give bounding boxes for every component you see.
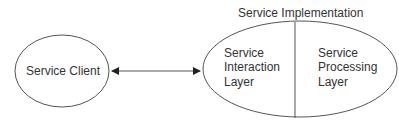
processing-layer-line-3: Layer	[318, 75, 348, 89]
service-diagram: Service Client Service Implementation Se…	[0, 0, 399, 125]
interaction-layer-line-2: Interaction	[224, 60, 280, 74]
implementation-title: Service Implementation	[238, 6, 363, 20]
service-client-label: Service Client	[26, 64, 101, 78]
interaction-layer-line-3: Layer	[224, 75, 254, 89]
processing-layer-line-1: Service	[318, 46, 358, 60]
processing-layer-line-2: Processing	[318, 60, 377, 74]
interaction-layer-line-1: Service	[224, 46, 264, 60]
